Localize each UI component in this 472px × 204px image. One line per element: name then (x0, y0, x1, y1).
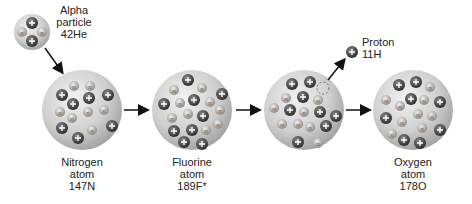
proton-particle-icon (346, 46, 358, 58)
oxygen-nucleus-icon (373, 70, 453, 150)
nitrogen-label: Nitrogen atom 147N (52, 156, 112, 192)
intermediate-nucleus-icon (264, 70, 344, 150)
arrow-proton (328, 60, 344, 80)
alpha-particle-icon (14, 14, 50, 50)
fluorine-nucleus-icon (152, 70, 232, 150)
proton-label: Proton 11H (362, 36, 394, 60)
nitrogen-nucleus-icon (42, 70, 122, 150)
oxygen-label: Oxygen atom 178O (383, 156, 443, 192)
fluorine-label: Fluorine atom 189F* (162, 156, 222, 192)
alpha-label: Alpha particle 42He (52, 4, 96, 40)
arrow-alpha (45, 48, 62, 72)
